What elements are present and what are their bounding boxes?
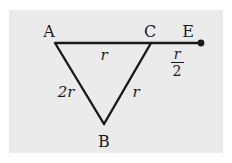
edge-label-ab: 2r	[57, 83, 76, 101]
edge-label-bc: r	[132, 83, 140, 101]
point-e-dot	[198, 40, 205, 47]
segment-cb	[104, 43, 151, 124]
edge-label-ac: r	[100, 46, 108, 64]
fraction-denominator: 2	[173, 63, 182, 79]
triangle-diagram: A C E B r 2r r r 2	[0, 0, 232, 163]
fraction-numerator: r	[174, 46, 182, 62]
vertex-label-a: A	[42, 22, 55, 41]
vertex-label-c: C	[144, 22, 156, 41]
vertex-label-e: E	[182, 22, 194, 41]
vertex-label-b: B	[98, 132, 110, 151]
